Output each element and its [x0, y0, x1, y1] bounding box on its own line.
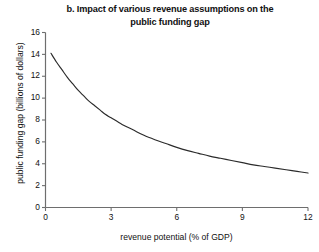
x-axis-tick-label: 9 — [230, 213, 254, 222]
y-axis-tick-label: 16 — [18, 28, 40, 37]
chart-figure: b. Impact of various revenue assumptions… — [0, 0, 319, 252]
y-axis-tick-label: 12 — [18, 71, 40, 80]
y-axis-tick-label: 6 — [18, 137, 40, 146]
y-axis-tick-label: 8 — [18, 115, 40, 124]
x-axis-tick-label: 6 — [165, 213, 189, 222]
data-series-line — [51, 53, 308, 173]
x-axis-tick-label: 0 — [34, 213, 58, 222]
y-axis-tick-label: 0 — [18, 203, 40, 212]
y-axis-tick-label: 2 — [18, 181, 40, 190]
y-axis-tick-label: 10 — [18, 93, 40, 102]
y-axis-tick-label: 14 — [18, 50, 40, 59]
y-axis-tick-label: 4 — [18, 159, 40, 168]
axes — [46, 33, 309, 208]
x-axis-tick-label: 3 — [99, 213, 123, 222]
x-axis-tick-label: 12 — [296, 213, 319, 222]
